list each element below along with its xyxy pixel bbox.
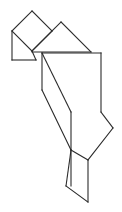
tangram-figure — [0, 0, 122, 212]
figure-background — [0, 0, 122, 212]
